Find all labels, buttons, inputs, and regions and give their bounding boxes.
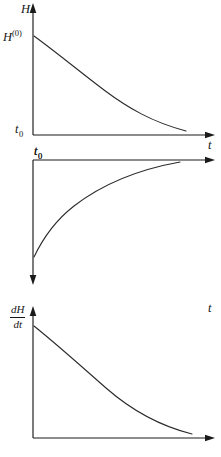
panel-2-top-origin-subscript: 0 bbox=[37, 151, 42, 161]
panel-1-origin-subscript: 0 bbox=[18, 129, 23, 139]
panel-h-vs-t: H H(0) t0 t0 t bbox=[0, 0, 221, 150]
panel-3-plot bbox=[0, 295, 221, 457]
panel-2-top-origin-label: t0 bbox=[34, 145, 42, 160]
panel-dhdt-vs-t: dH dt t bbox=[0, 140, 221, 295]
panel-1-decay-curve bbox=[34, 36, 186, 131]
panel-2-derivative-curve bbox=[34, 162, 180, 257]
panel-ha-vs-t: Ha t0 t bbox=[0, 295, 221, 457]
panel-3-x-axis-arrow-icon bbox=[205, 435, 215, 442]
panel-2-y-axis-arrow-icon bbox=[30, 275, 37, 285]
panel-3-decay-curve bbox=[34, 326, 192, 434]
panel-2-x-axis-arrow-icon bbox=[205, 157, 215, 164]
three-panel-figure: H H(0) t0 t0 t dH dt t bbox=[0, 0, 221, 457]
panel-3-y-axis-arrow-icon bbox=[30, 306, 37, 316]
panel-1-initial-value-base: H bbox=[3, 30, 12, 44]
panel-1-initial-value-label: H(0) bbox=[3, 29, 22, 44]
panel-1-y-axis-arrow-icon bbox=[30, 3, 37, 13]
panel-1-plot bbox=[0, 0, 221, 150]
panel-1-origin-label: t0 bbox=[15, 123, 23, 138]
panel-2-plot bbox=[0, 140, 221, 295]
panel-1-y-axis-label: H bbox=[21, 3, 30, 16]
panel-1-initial-value-superscript: (0) bbox=[12, 28, 22, 38]
